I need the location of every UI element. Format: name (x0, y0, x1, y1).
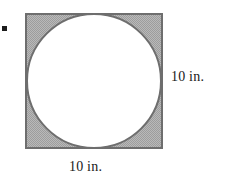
bottom-side-length-label: 10 in. (69, 160, 102, 174)
right-side-length-label: 10 in. (171, 70, 204, 84)
inscribed-circle-shape (27, 14, 161, 148)
geometry-figure: 10 in. 10 in. (0, 0, 227, 179)
figure-canvas (0, 0, 227, 179)
